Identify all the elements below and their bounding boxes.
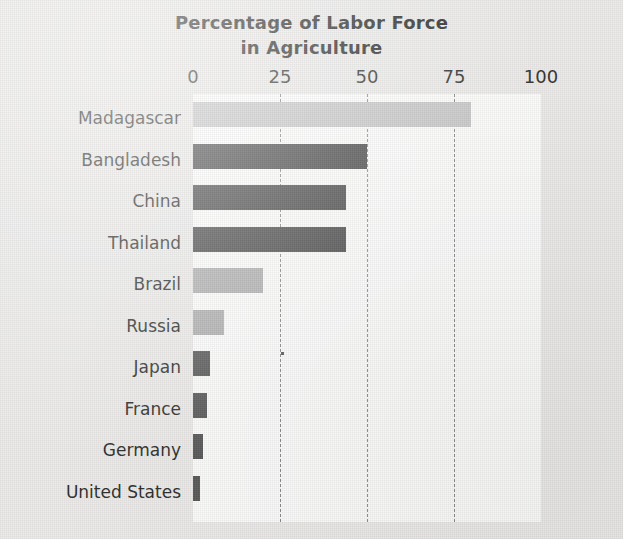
category-label-japan: Japan	[134, 357, 181, 377]
category-label-brazil: Brazil	[134, 274, 181, 294]
chart-title: Percentage of Labor Force in Agriculture	[0, 10, 623, 60]
x-tick-label-50: 50	[356, 66, 379, 87]
gridline-75	[454, 94, 455, 522]
bar-russia	[193, 310, 224, 335]
bar-brazil	[193, 268, 263, 293]
x-tick-label-75: 75	[443, 66, 466, 87]
category-label-thailand: Thailand	[108, 233, 181, 253]
x-tick-label-0: 0	[187, 66, 198, 87]
x-axis-tick-labels: 0255075100	[0, 66, 623, 92]
bar-germany	[193, 434, 203, 459]
chart-title-line-2: in Agriculture	[0, 35, 623, 60]
chart-title-line-1: Percentage of Labor Force	[0, 10, 623, 35]
bar-madagascar	[193, 102, 471, 127]
bar-france	[193, 393, 207, 418]
category-label-germany: Germany	[103, 440, 181, 460]
category-label-france: France	[124, 399, 181, 419]
bar-japan	[193, 351, 210, 376]
chart-page: Percentage of Labor Force in Agriculture…	[0, 0, 623, 539]
x-tick-label-25: 25	[269, 66, 292, 87]
bar-thailand	[193, 227, 346, 252]
bar-united-states	[193, 476, 200, 501]
category-label-united-states: United States	[66, 482, 181, 502]
scan-artifact-dot	[281, 352, 284, 355]
category-label-bangladesh: Bangladesh	[81, 150, 181, 170]
plot-area	[193, 94, 541, 522]
x-tick-label-100: 100	[524, 66, 558, 87]
category-label-china: China	[132, 191, 181, 211]
gridline-50	[367, 94, 368, 522]
category-label-russia: Russia	[126, 316, 181, 336]
bar-bangladesh	[193, 144, 367, 169]
category-label-madagascar: Madagascar	[78, 108, 181, 128]
bar-china	[193, 185, 346, 210]
